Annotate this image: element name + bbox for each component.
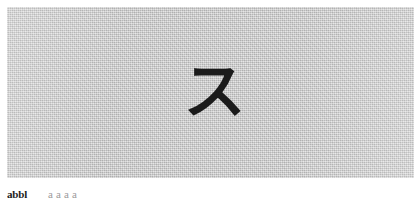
caption-label: abbl — [7, 188, 27, 200]
figure-caption: abbl a a a a — [7, 188, 414, 200]
glyph-container: ス — [7, 7, 414, 178]
caption-text: a a a a — [48, 188, 77, 200]
document-page: ス abbl a a a a — [0, 0, 418, 200]
figure-image-panel: ス — [7, 7, 414, 178]
katakana-su-glyph: ス — [183, 61, 245, 123]
